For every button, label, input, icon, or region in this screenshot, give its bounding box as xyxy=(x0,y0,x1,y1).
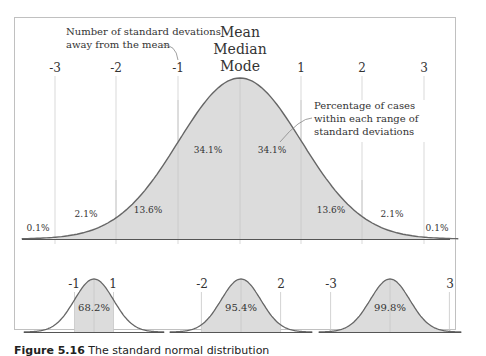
percent-label: 13.6% xyxy=(317,205,346,215)
tick-label: -2 xyxy=(110,61,122,75)
percent-label: 2.1% xyxy=(75,209,98,219)
percent-label: 0.1% xyxy=(426,223,449,233)
small-tick-label: 3 xyxy=(446,277,454,291)
tick-label: 3 xyxy=(420,61,428,75)
percent-label: 13.6% xyxy=(134,205,163,215)
small-tick-label: 1 xyxy=(109,277,117,291)
tick-label: -1 xyxy=(172,61,184,75)
small-tick-label: -3 xyxy=(325,277,337,291)
annotation-line: standard deviations xyxy=(314,126,414,137)
small-chart-percents: 68.2% 95.4% 99.8% xyxy=(78,302,406,313)
percent-label: 0.1% xyxy=(27,223,50,233)
figure-caption: Figure 5.16 The standard normal distribu… xyxy=(14,344,269,356)
small-percent-label: 68.2% xyxy=(78,302,110,313)
annotation-line: within each range of xyxy=(314,113,420,124)
annotation-line: Number of standard devations xyxy=(66,26,221,37)
small-tick-label: 2 xyxy=(277,277,285,291)
tick-label: -3 xyxy=(49,61,61,75)
small-percent-label: 95.4% xyxy=(225,302,257,313)
normal-distribution-diagram: -3 -2 -1 1 2 3 Mean Median Mode Number o… xyxy=(0,0,486,356)
caption-label: Figure 5.16 xyxy=(14,344,85,356)
center-label-mean: Mean xyxy=(220,24,260,40)
percent-label: 2.1% xyxy=(381,209,404,219)
annotation-sd-note: Number of standard devations away from t… xyxy=(66,26,221,60)
tick-label: 1 xyxy=(297,61,305,75)
caption-text: The standard normal distribution xyxy=(88,344,269,356)
tick-label: 2 xyxy=(358,61,366,75)
small-percent-label: 99.8% xyxy=(374,302,406,313)
center-label-median: Median xyxy=(213,41,266,57)
annotation-line: away from the mean xyxy=(66,39,170,50)
small-tick-label: -2 xyxy=(196,277,208,291)
annotation-pct-note: Percentage of cases within each range of… xyxy=(280,100,438,142)
percent-label: 34.1% xyxy=(194,145,223,155)
center-label-mode: Mode xyxy=(220,58,260,74)
annotation-line: Percentage of cases xyxy=(314,100,415,111)
percent-label: 34.1% xyxy=(258,145,287,155)
center-label: Mean Median Mode xyxy=(213,24,266,74)
small-tick-label: -1 xyxy=(68,277,80,291)
